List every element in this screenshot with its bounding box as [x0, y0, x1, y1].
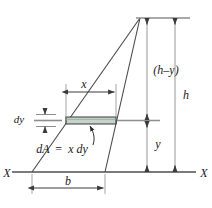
area-element-label: dA = x dy [36, 142, 88, 156]
axis-label-right: X [199, 166, 208, 180]
dy-dimension-label: dy [14, 113, 25, 125]
area-element-prefix: dA [36, 142, 50, 156]
x-dimension-label: x [80, 77, 87, 91]
area-element-equals: = [55, 142, 62, 156]
y-dimension-label: y [154, 137, 161, 151]
axis-label-left: X [2, 166, 11, 180]
triangle-right-edge [105, 18, 140, 172]
triangle-area-diagram: x dy dA = x dy b (h–y) y [0, 0, 212, 208]
h-dimension-label: h [183, 88, 189, 102]
b-dimension-label: b [65, 174, 71, 188]
area-element-leader-arrow [90, 126, 94, 145]
figure-container: x dy dA = x dy b (h–y) y [0, 0, 212, 208]
differential-strip [66, 117, 116, 124]
area-element-expression: x dy [67, 142, 88, 156]
